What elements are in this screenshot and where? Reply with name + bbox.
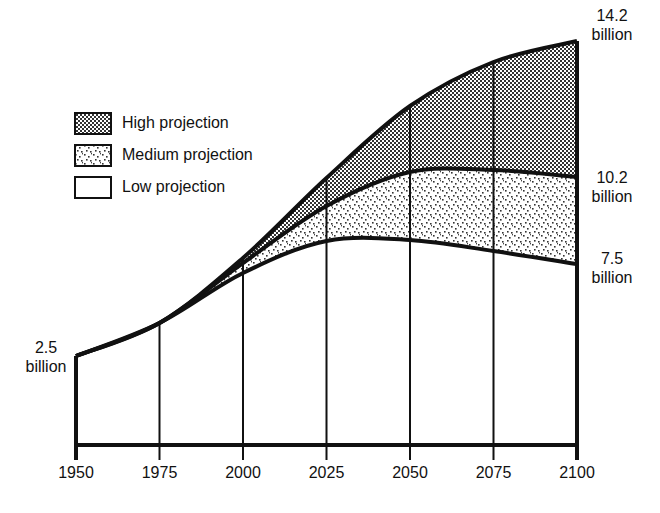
annotation-unit: billion	[582, 187, 642, 206]
annotation-value: 7.5	[582, 249, 642, 268]
low-projection-swatch	[74, 176, 112, 199]
x-tick-label: 2050	[385, 464, 435, 482]
medium-end-annotation: 10.2 billion	[582, 168, 642, 206]
x-tick-label: 1975	[135, 464, 185, 482]
population-projection-chart	[0, 0, 660, 513]
legend-label: Medium projection	[122, 146, 253, 164]
annotation-unit: billion	[18, 357, 74, 376]
annotation-value: 2.5	[18, 338, 74, 357]
x-tick-label: 1950	[51, 464, 101, 482]
start-value-annotation: 2.5 billion	[18, 338, 74, 376]
annotation-unit: billion	[582, 25, 642, 44]
high-projection-swatch	[74, 112, 112, 135]
x-tick-label: 2025	[302, 464, 352, 482]
x-tick-label: 2075	[469, 464, 519, 482]
low-end-annotation: 7.5 billion	[582, 249, 642, 287]
high-end-annotation: 14.2 billion	[582, 6, 642, 44]
medium-projection-swatch	[74, 144, 112, 167]
legend-label: High projection	[122, 114, 229, 132]
legend-item-low: Low projection	[74, 171, 253, 203]
annotation-value: 14.2	[582, 6, 642, 25]
legend: High projection Medium projection Low pr…	[74, 107, 253, 203]
legend-item-high: High projection	[74, 107, 253, 139]
annotation-value: 10.2	[582, 168, 642, 187]
x-tick-label: 2000	[218, 464, 268, 482]
annotation-unit: billion	[582, 268, 642, 287]
legend-label: Low projection	[122, 178, 225, 196]
legend-item-medium: Medium projection	[74, 139, 253, 171]
x-tick-label: 2100	[552, 464, 602, 482]
